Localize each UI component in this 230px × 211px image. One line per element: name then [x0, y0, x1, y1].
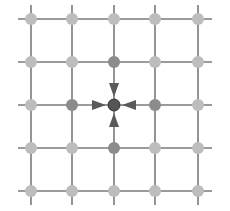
grid-node	[25, 142, 37, 154]
grid-graph-diagram	[0, 0, 230, 211]
arrow-icon-left	[122, 100, 136, 110]
grid-node	[192, 99, 204, 111]
grid-node	[149, 142, 161, 154]
arrow-icon-down	[109, 83, 119, 97]
neighbor-node	[108, 56, 120, 68]
neighbor-node	[108, 142, 120, 154]
grid-node	[149, 56, 161, 68]
grid-node	[25, 56, 37, 68]
neighbor-node	[149, 99, 161, 111]
grid-node	[66, 13, 78, 25]
grid-node	[25, 99, 37, 111]
neighbor-node	[66, 99, 78, 111]
grid-node	[192, 56, 204, 68]
grid-node	[66, 142, 78, 154]
grid-node	[66, 185, 78, 197]
grid-node	[149, 13, 161, 25]
grid-node	[108, 185, 120, 197]
grid-node	[149, 185, 161, 197]
grid-node	[192, 13, 204, 25]
grid-node	[192, 185, 204, 197]
grid-node	[192, 142, 204, 154]
grid-node	[66, 56, 78, 68]
grid-node	[25, 185, 37, 197]
center-node	[108, 99, 120, 111]
arrow-icon-right	[92, 100, 106, 110]
grid-node	[108, 13, 120, 25]
grid-node	[25, 13, 37, 25]
arrow-icon-up	[109, 113, 119, 127]
